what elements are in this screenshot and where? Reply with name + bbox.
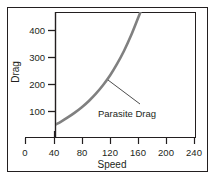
x-tick-label-200: 200 [158, 147, 174, 158]
x-tick-label-120: 120 [102, 147, 118, 158]
parasite-drag-annotation-label: Parasite Drag [98, 108, 156, 119]
x-tick-label-160: 160 [130, 147, 146, 158]
y-tick-label-200: 200 [29, 79, 45, 90]
drag-vs-speed-chart: 400 300 200 100 Drag 0 40 80 120 160 200… [0, 0, 215, 180]
chart-canvas: 400 300 200 100 Drag 0 40 80 120 160 200… [0, 0, 215, 180]
x-tick-label-80: 80 [77, 147, 88, 158]
x-tick-label-240: 240 [186, 147, 202, 158]
x-tick-label-0: 0 [22, 147, 27, 158]
y-axis-title: Drag [10, 61, 21, 83]
y-tick-label-100: 100 [29, 106, 45, 117]
y-tick-label-300: 300 [29, 52, 45, 63]
x-tick-label-40: 40 [49, 147, 60, 158]
y-tick-label-400: 400 [29, 25, 45, 36]
x-axis-title: Speed [98, 159, 127, 170]
